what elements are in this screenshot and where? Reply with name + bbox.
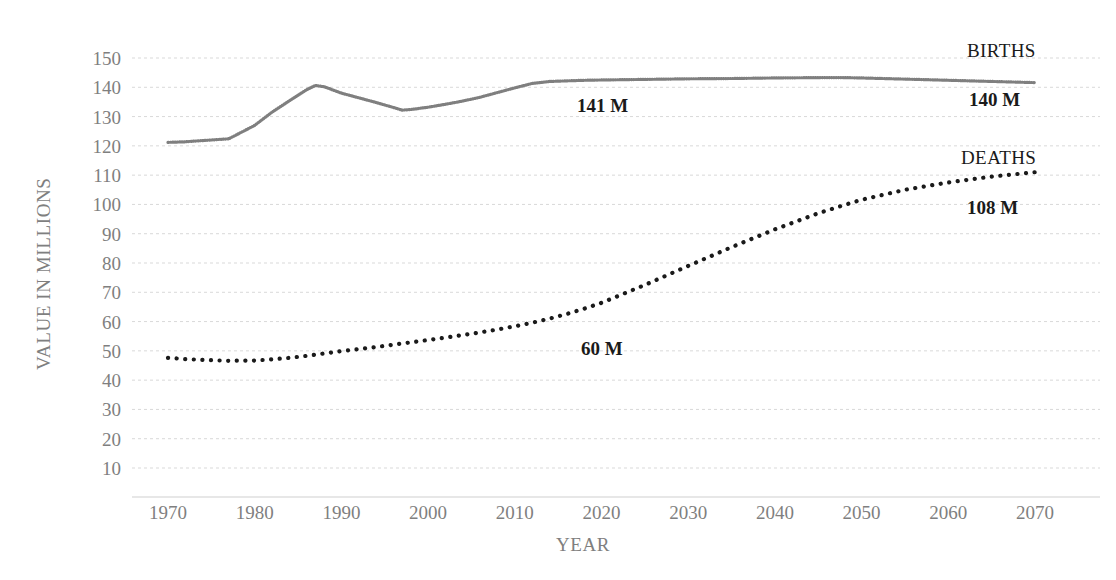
y-tick-label: 50: [102, 341, 121, 362]
y-tick-label: 60: [102, 312, 121, 333]
x-tick-label: 2000: [409, 502, 447, 523]
x-axis-tick-labels: 1970198019902000201020202030204020502060…: [149, 502, 1054, 523]
line-chart: 150140130120110100908070605040302010 197…: [0, 0, 1116, 580]
y-tick-label: 30: [102, 399, 121, 420]
series-line-deaths: [168, 172, 1035, 361]
chart-annotations: BIRTHS141 M140 MDEATHS108 M60 M: [577, 40, 1036, 359]
x-tick-label: 1980: [236, 502, 274, 523]
y-tick-label: 100: [93, 194, 122, 215]
deaths-series-label: DEATHS: [961, 147, 1036, 168]
y-tick-label: 10: [102, 458, 121, 479]
x-tick-label: 2050: [843, 502, 881, 523]
y-tick-label: 70: [102, 282, 121, 303]
y-tick-label: 130: [93, 107, 122, 128]
y-tick-label: 90: [102, 224, 121, 245]
y-axis-tick-labels: 150140130120110100908070605040302010: [93, 48, 122, 479]
deaths-mid-value: 60 M: [581, 338, 623, 359]
y-tick-label: 150: [93, 48, 122, 69]
y-tick-label: 20: [102, 429, 121, 450]
y-tick-label: 120: [93, 136, 122, 157]
x-axis-title: YEAR: [556, 534, 610, 555]
chart-container: 150140130120110100908070605040302010 197…: [0, 0, 1116, 580]
y-tick-label: 110: [93, 165, 121, 186]
y-tick-label: 40: [102, 370, 121, 391]
x-tick-label: 1970: [149, 502, 187, 523]
y-axis-title: VALUE IN MILLIONS: [33, 178, 54, 370]
data-series-group: [168, 78, 1035, 361]
x-tick-label: 1990: [322, 502, 360, 523]
x-tick-label: 2040: [756, 502, 794, 523]
x-tick-label: 2010: [496, 502, 534, 523]
deaths-end-value: 108 M: [967, 197, 1018, 218]
x-tick-label: 2060: [929, 502, 967, 523]
y-tick-label: 140: [93, 77, 122, 98]
x-tick-label: 2030: [669, 502, 707, 523]
births-end-value: 140 M: [969, 89, 1020, 110]
gridlines: [132, 58, 1100, 497]
x-tick-label: 2070: [1016, 502, 1054, 523]
births-series-label: BIRTHS: [967, 40, 1036, 61]
x-tick-label: 2020: [583, 502, 621, 523]
y-tick-label: 80: [102, 253, 121, 274]
births-mid-value: 141 M: [577, 95, 628, 116]
